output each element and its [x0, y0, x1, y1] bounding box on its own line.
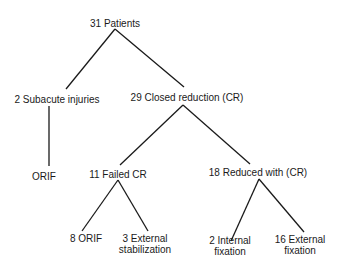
edge-cr-reduced	[183, 105, 250, 164]
node-31-patients: 31 Patients	[90, 18, 140, 29]
node-closed-reduction: 29 Closed reduction (CR)	[131, 92, 244, 103]
node-external-fixation: 16 External fixation	[275, 234, 326, 256]
node-internal-fixation: 2 Internal fixation	[209, 235, 251, 257]
node-orif-subacute: ORIF	[32, 171, 56, 182]
edge-failed-external	[118, 180, 148, 231]
label-line2: fixation	[275, 245, 326, 256]
edge-cr-failed	[120, 105, 183, 165]
label-line2: fixation	[209, 246, 251, 257]
node-subacute-injuries: 2 Subacute injuries	[14, 94, 99, 105]
edge-reduced-external	[259, 179, 304, 232]
label-line1: 2 Internal	[209, 235, 251, 246]
tree-edges	[0, 0, 338, 266]
label-line1: 3 External	[119, 233, 171, 244]
node-reduced-with-cr: 18 Reduced with (CR)	[209, 167, 307, 178]
label-line1: 16 External	[275, 234, 326, 245]
node-failed-cr: 11 Failed CR	[89, 169, 147, 180]
edge-root-closed-reduction	[115, 29, 184, 87]
label-line2: stabilization	[119, 244, 171, 255]
edge-root-subacute	[66, 29, 115, 89]
edge-reduced-internal	[231, 179, 259, 241]
node-external-stabilization: 3 External stabilization	[119, 233, 171, 255]
node-8-orif: 8 ORIF	[70, 233, 102, 244]
edge-failed-orif	[82, 180, 118, 231]
